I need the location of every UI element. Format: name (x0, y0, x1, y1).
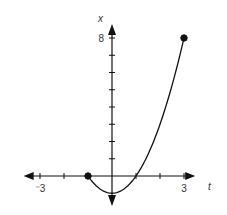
t-tick-label: ⁻3 (35, 183, 46, 194)
t-axis (24, 172, 196, 180)
x-tick-label: 8 (98, 33, 104, 44)
endpoint-dot (85, 173, 91, 179)
arrow-up-icon (108, 24, 116, 35)
arrow-left-icon (24, 172, 34, 180)
t-tick-label: 3 (181, 183, 187, 194)
curve-x-equals-t-squared-minus-one (88, 38, 184, 193)
curve-endpoints (85, 35, 187, 179)
t-axis-label: t (208, 181, 212, 192)
x-axis-vertical (108, 24, 116, 206)
tick-labels: ⁻338 (35, 33, 188, 194)
x-axis-label: x (97, 13, 104, 24)
arrow-down-icon (108, 195, 116, 206)
endpoint-dot (181, 35, 187, 41)
function-graph: ⁻338 t x (0, 0, 227, 215)
arrow-right-icon (185, 172, 195, 180)
